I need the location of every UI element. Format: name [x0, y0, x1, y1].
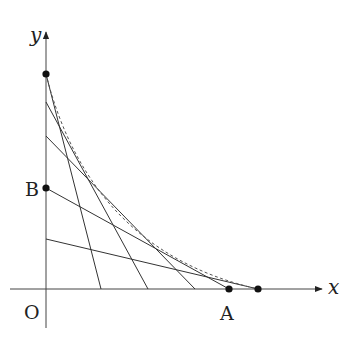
y-axis-label: y: [29, 23, 42, 47]
x-axis-label: x: [328, 275, 339, 299]
line-segments: [46, 74, 258, 289]
dashed-envelope-curve: [46, 74, 258, 289]
segment-4: [46, 188, 229, 289]
diagram-canvas: y x O A B: [0, 0, 356, 348]
points: [42, 70, 261, 292]
point-b: [42, 184, 49, 191]
point-a: [225, 285, 232, 292]
point-right-x-point: [254, 285, 261, 292]
point-b-label: B: [25, 178, 39, 200]
segment-2: [46, 102, 148, 289]
origin-label: O: [24, 301, 40, 323]
point-top-y-point: [42, 70, 49, 77]
point-a-label: A: [219, 302, 234, 324]
segment-3: [46, 136, 195, 289]
